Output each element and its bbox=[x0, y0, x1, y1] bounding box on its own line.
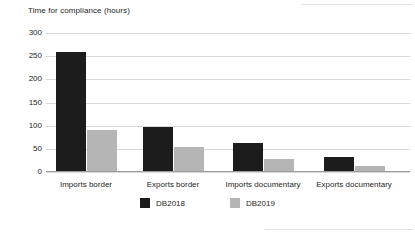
legend-item-db2018: DB2018 bbox=[140, 198, 185, 208]
legend-item-db2019: DB2019 bbox=[230, 198, 275, 208]
y-tick-label-0: 0 bbox=[6, 167, 42, 176]
bar-db2018-exports-border bbox=[143, 127, 173, 172]
y-tick-label-250: 250 bbox=[6, 51, 42, 60]
legend-swatch-db2019 bbox=[230, 198, 240, 208]
legend-label-db2018: DB2018 bbox=[156, 199, 185, 208]
gridline-0 bbox=[46, 172, 410, 173]
legend: DB2018DB2019 bbox=[0, 198, 415, 208]
y-tick-label-150: 150 bbox=[6, 98, 42, 107]
y-tick-label-200: 200 bbox=[6, 74, 42, 83]
x-axis-baseline bbox=[46, 171, 410, 172]
bar-db2018-imports-border bbox=[56, 52, 86, 172]
bar-db2018-imports-documentary bbox=[233, 143, 263, 172]
page-rule-top bbox=[301, 4, 413, 5]
gridline-150 bbox=[46, 103, 410, 104]
category-label-imports-border: Imports border bbox=[60, 180, 112, 189]
legend-label-db2019: DB2019 bbox=[246, 199, 275, 208]
legend-swatch-db2018 bbox=[140, 198, 150, 208]
gridline-300 bbox=[46, 33, 410, 34]
category-label-exports-documentary: Exports documentary bbox=[316, 180, 392, 189]
x-axis: Imports borderExports borderImports docu… bbox=[0, 180, 415, 192]
y-tick-label-50: 50 bbox=[6, 144, 42, 153]
bar-db2019-exports-border bbox=[174, 147, 204, 172]
y-tick-label-300: 300 bbox=[6, 28, 42, 37]
chart-title: Time for compliance (hours) bbox=[28, 6, 130, 15]
gridline-200 bbox=[46, 79, 410, 80]
category-label-exports-border: Exports border bbox=[147, 180, 199, 189]
y-tick-label-100: 100 bbox=[6, 121, 42, 130]
gridline-100 bbox=[46, 126, 410, 127]
plot-area bbox=[46, 33, 410, 172]
category-label-imports-documentary: Imports documentary bbox=[225, 180, 300, 189]
gridline-250 bbox=[46, 56, 410, 57]
bar-db2018-exports-documentary bbox=[324, 157, 354, 172]
page-rule-bottom bbox=[265, 229, 413, 230]
bar-db2019-imports-border bbox=[87, 130, 117, 172]
